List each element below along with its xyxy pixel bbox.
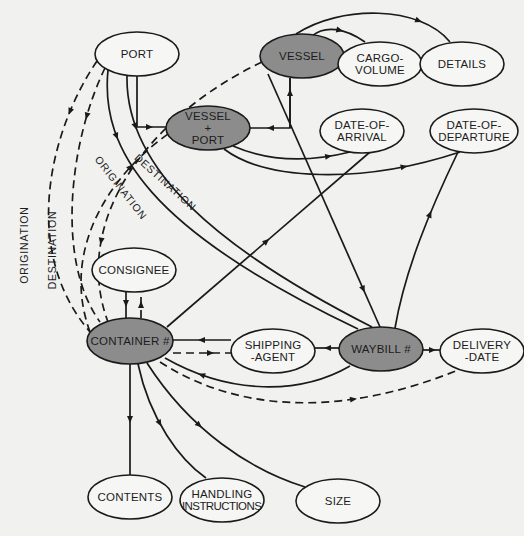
node-vessel: VESSEL (260, 34, 344, 78)
edge-port-to-vessel-port (137, 76, 166, 127)
edge-vessel-port-to-date-of-departure (224, 149, 460, 175)
node-date-of-arrival: DATE-OF-ARRIVAL (320, 109, 404, 153)
node-label: -AGENT (251, 351, 296, 363)
arrowhead-icon (359, 285, 367, 294)
arrowhead-icon (127, 416, 133, 423)
node-label: CONTENTS (98, 491, 163, 503)
node-label: CARGO- (356, 52, 403, 64)
node-cargo-volume: CARGO-VOLUME (338, 42, 422, 86)
label-origination-outer: ORIGINATION (18, 206, 30, 283)
node-vessel-port: VESSEL+PORT (166, 106, 250, 150)
arrowhead-icon (66, 107, 74, 116)
node-waybill: WAYBILL # (339, 327, 423, 371)
node-label: PORT (192, 134, 225, 146)
nodes-layer: PORTVESSELCARGO-VOLUMEDETAILSVESSEL+PORT… (87, 32, 524, 523)
arrowhead-icon (198, 337, 205, 343)
node-label: WAYBILL # (351, 343, 411, 355)
edge-waybill-to-date-of-departure (395, 152, 458, 328)
arrowhead-icon (123, 300, 129, 307)
arrowhead-icon (324, 345, 331, 351)
edge-vessel-to-vessel-port (250, 78, 290, 128)
node-label: DATE-OF- (334, 119, 389, 131)
arrowhead-icon (414, 17, 423, 25)
node-label: -DATE (465, 351, 500, 363)
node-label: DATE-OF- (446, 119, 501, 131)
label-destination-outer: DESTINATION (46, 211, 58, 290)
node-label: VESSEL (279, 50, 325, 62)
node-consignee: CONSIGNEE (92, 248, 176, 292)
node-label: INSTRUCTIONS (182, 500, 262, 512)
node-label: DELIVERY (453, 339, 511, 351)
node-container: CONTAINER # (87, 318, 173, 364)
node-label: CONTAINER # (90, 335, 170, 347)
arrowhead-icon (155, 419, 164, 428)
node-label: DETAILS (438, 58, 487, 70)
arrowhead-icon (287, 89, 293, 96)
node-label: VESSEL (185, 110, 231, 122)
node-label: + (205, 122, 212, 134)
node-label: PORT (121, 48, 154, 60)
node-date-of-departure: DATE-OF-DEPARTURE (430, 109, 518, 153)
arrowhead-icon (197, 371, 206, 379)
node-label: ARRIVAL (337, 131, 387, 143)
node-label: HANDLING (191, 488, 252, 500)
arrowhead-icon (138, 301, 144, 308)
node-handling-instructions: HANDLINGINSTRUCTIONS (180, 478, 264, 522)
arrowhead-icon (350, 396, 358, 403)
node-label: SIZE (325, 495, 351, 507)
node-details: DETAILS (420, 42, 504, 86)
node-size: SIZE (296, 479, 380, 523)
node-shipping-agent: SHIPPING-AGENT (231, 329, 315, 373)
node-label: DEPARTURE (438, 131, 510, 143)
arrowhead-icon (207, 350, 214, 356)
arrowhead-icon (146, 124, 153, 130)
edge-vessel-port-to-date-of-arrival (233, 146, 350, 159)
node-delivery-date: DELIVERY-DATE (440, 329, 524, 373)
node-label: CONSIGNEE (99, 264, 170, 276)
arrowhead-icon (267, 125, 274, 131)
arrowhead-icon (426, 210, 434, 219)
arrowhead-icon (113, 132, 121, 141)
node-port: PORT (95, 32, 179, 76)
node-label: SHIPPING (245, 339, 302, 351)
node-contents: CONTENTS (88, 475, 172, 519)
arrowhead-icon (429, 347, 436, 353)
entity-relationship-diagram: ORIGINATIONDESTINATIONORIGINATIONDESTINA… (0, 0, 524, 536)
node-label: VOLUME (355, 64, 405, 76)
